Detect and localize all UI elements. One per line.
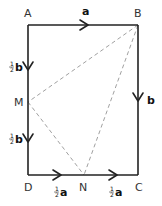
svg-text:a: a <box>115 186 122 199</box>
svg-text:2: 2 <box>55 191 59 198</box>
rectangle-edges <box>28 25 138 175</box>
vector-label-b: b <box>147 94 155 107</box>
point-label-C: C <box>135 181 143 194</box>
vector-label-half-a: 1 2 a <box>54 185 67 199</box>
dashed-line-BM <box>28 25 138 102</box>
svg-text:2: 2 <box>10 66 14 73</box>
dashed-lines <box>28 25 138 175</box>
vector-label-half-b: 1 2 b <box>9 60 23 74</box>
svg-text:b: b <box>15 61 23 74</box>
point-label-N: N <box>79 181 87 194</box>
dashed-line-MN <box>28 102 84 175</box>
dashed-line-BN <box>84 25 138 175</box>
arrowheads <box>23 20 143 180</box>
point-label-M: M <box>14 96 24 109</box>
vector-label-half-b: 1 2 b <box>9 132 23 146</box>
vector-diagram: A B M D N C a 1 2 b 1 2 b b 1 2 a 1 2 a <box>0 0 162 206</box>
point-label-B: B <box>134 7 142 20</box>
vector-label-half-a: 1 2 a <box>109 185 122 199</box>
point-label-A: A <box>24 7 32 20</box>
svg-text:a: a <box>60 186 67 199</box>
svg-text:b: b <box>15 133 23 146</box>
point-label-D: D <box>24 181 32 194</box>
vector-label-a: a <box>82 5 89 18</box>
svg-text:2: 2 <box>110 191 114 198</box>
svg-text:2: 2 <box>10 138 14 145</box>
